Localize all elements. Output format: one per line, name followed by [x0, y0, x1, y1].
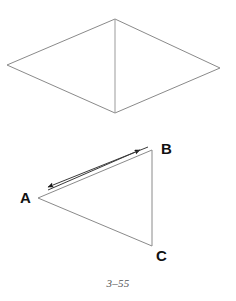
arrow-b-to-a — [48, 147, 148, 187]
rhombus-outline — [7, 19, 220, 113]
figure-container: A B C 3–55 — [0, 0, 236, 301]
ab-arrow-pair — [48, 147, 148, 190]
vertex-label-b: B — [161, 141, 172, 156]
figure-caption: 3–55 — [0, 277, 236, 289]
rhombus-shape — [7, 19, 220, 113]
vertex-label-c: C — [156, 248, 167, 263]
triangle-abc-outline — [38, 150, 152, 246]
vertex-label-a: A — [20, 190, 31, 205]
figure-drawing-canvas — [0, 0, 236, 301]
triangle-shape — [38, 150, 152, 246]
